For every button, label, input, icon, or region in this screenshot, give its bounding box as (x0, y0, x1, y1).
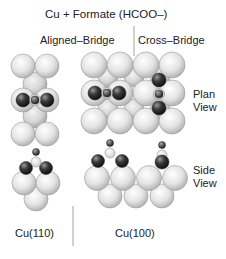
cu100-plan-aligned-formate (88, 86, 126, 100)
cu110-plan-formate (16, 93, 54, 107)
cu110-side (12, 171, 60, 211)
cu110-side-formate (20, 149, 53, 175)
cu100-side-aligned-formate (92, 140, 129, 168)
adsorption-diagram (0, 0, 226, 259)
cu100-plan-cross-formate (152, 73, 166, 115)
cu100-side (85, 166, 188, 209)
cu100-side-cross-formate (155, 142, 169, 170)
